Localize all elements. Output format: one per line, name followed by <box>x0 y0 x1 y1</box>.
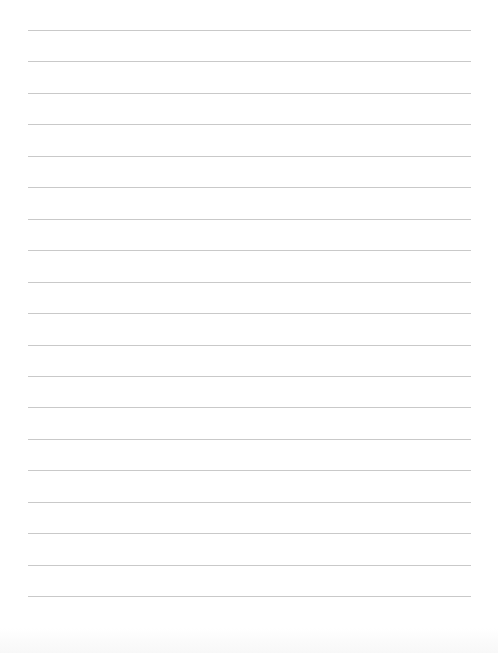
lined-paper-page <box>0 0 498 653</box>
ruled-line <box>28 156 471 157</box>
ruled-line <box>28 502 471 503</box>
ruled-line <box>28 187 471 188</box>
scan-noise <box>0 628 498 653</box>
ruled-line <box>28 565 471 566</box>
ruled-line <box>28 470 471 471</box>
ruled-line <box>28 30 471 31</box>
ruled-line <box>28 596 471 597</box>
ruled-line <box>28 124 471 125</box>
ruled-line <box>28 250 471 251</box>
ruled-line <box>28 93 471 94</box>
ruled-line <box>28 439 471 440</box>
ruled-line <box>28 407 471 408</box>
ruled-line <box>28 313 471 314</box>
ruled-line <box>28 345 471 346</box>
ruled-line <box>28 376 471 377</box>
ruled-line <box>28 219 471 220</box>
ruled-line <box>28 61 471 62</box>
ruled-line <box>28 533 471 534</box>
ruled-line <box>28 282 471 283</box>
